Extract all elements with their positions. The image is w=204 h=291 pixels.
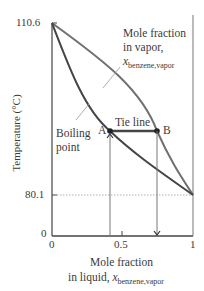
- x-axis-label-line1: Mole fraction: [90, 257, 153, 269]
- y-axis-label: Temperature (°C): [10, 94, 22, 171]
- vapor-label-line2: in vapor,: [123, 42, 163, 54]
- y-tick-80-1: 80.1: [25, 189, 44, 200]
- vapor-label-line1: Mole fraction: [123, 28, 186, 40]
- y-tick-0: 0: [41, 228, 47, 239]
- x-tick-1: 1: [190, 239, 196, 250]
- phase-diagram-canvas: [0, 0, 204, 291]
- boiling-label-line2: point: [56, 142, 80, 154]
- point-a-marker: [107, 128, 113, 134]
- vapor-label-line3: xbenzene,vapor: [123, 56, 175, 70]
- x-axis-label-line2: in liquid, xbenzene,vapor: [68, 272, 164, 286]
- vapor-label-sub: benzene,vapor: [128, 61, 174, 70]
- x-tick-0: 0: [49, 239, 55, 250]
- point-b-label: B: [163, 125, 171, 137]
- x-tick-0-5: 0.5: [114, 239, 128, 250]
- x-axis-label-sub: benzene,vapor: [118, 277, 164, 286]
- boiling-label-line1: Boiling: [56, 128, 91, 140]
- tie-line-label: Tie line: [115, 117, 150, 129]
- boiling-leader: [76, 104, 89, 120]
- point-a-label: A: [98, 125, 106, 137]
- y-tick-110-6: 110.6: [16, 17, 40, 28]
- x-axis-label-prefix: in liquid,: [68, 271, 112, 283]
